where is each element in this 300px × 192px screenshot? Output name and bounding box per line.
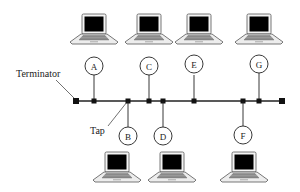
node-b: B [93,99,141,183]
terminator-label: Terminator [16,68,61,79]
node-label-g: G [256,60,263,70]
node-a: A [70,14,118,104]
tap-point [192,99,197,104]
node-label-d: D [160,132,167,142]
node-f: F [220,99,268,183]
terminator-leader [56,80,75,99]
terminator-right [279,98,285,104]
laptop-icon [70,14,118,44]
laptop-icon [175,14,223,44]
node-d: D [148,99,196,183]
tap-leader [108,102,127,126]
node-label-a: A [91,62,98,72]
laptop-icon [220,152,268,182]
tap-point [257,99,262,104]
laptop-icon [148,152,196,182]
node-label-e: E [191,60,197,70]
laptop-icon [235,14,283,44]
node-label-c: C [146,62,152,72]
tap-point [92,99,97,104]
tap-point [147,99,152,104]
node-c: C [125,14,173,104]
bus-network-diagram: Terminator Tap A C E G [0,0,300,192]
tap-label: Tap [90,125,105,136]
node-label-f: F [240,131,245,141]
node-label-b: B [125,132,131,142]
node-g: G [235,14,283,104]
terminator-left [73,98,79,104]
laptop-icon [125,14,173,44]
node-e: E [175,14,223,104]
laptop-icon [93,152,141,182]
